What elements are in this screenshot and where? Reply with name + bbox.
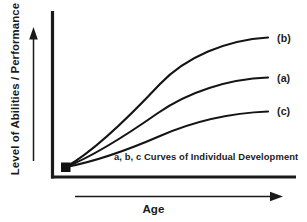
development-curves-figure: Level of Abilities / Performance Age a, … bbox=[0, 0, 307, 222]
curve-label-b: (b) bbox=[277, 33, 291, 44]
figure-caption: a, b, c Curves of Individual Development bbox=[114, 152, 298, 161]
curve-b bbox=[66, 38, 268, 168]
x-axis-direction-arrow bbox=[75, 192, 283, 201]
y-axis-direction-arrow bbox=[29, 27, 38, 161]
figure-canvas bbox=[0, 0, 307, 222]
origin-marker bbox=[62, 163, 71, 172]
curve-label-c: (c) bbox=[277, 106, 290, 117]
curve-label-a: (a) bbox=[277, 73, 290, 84]
x-axis-label: Age bbox=[0, 203, 307, 215]
